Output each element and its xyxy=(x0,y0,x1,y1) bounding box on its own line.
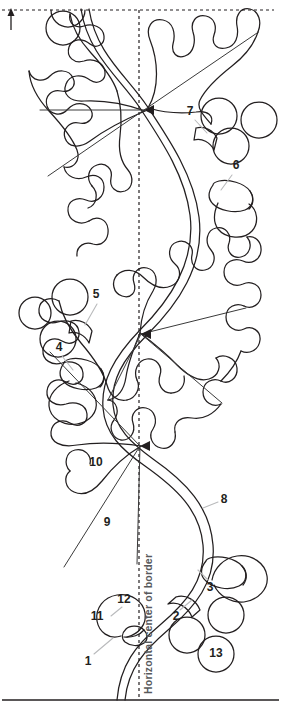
leader-line-1 xyxy=(94,638,113,654)
callout-label-7: 7 xyxy=(187,104,194,118)
pattern-line-art: 1 2 3 4 5 6 7 8 9 10 11 12 13 Horizontal… xyxy=(0,0,281,711)
circle-upper-right-c xyxy=(213,128,249,164)
callout-label-1: 1 xyxy=(85,654,92,668)
callout-label-6: 6 xyxy=(233,158,240,172)
leader-line-7 xyxy=(195,120,207,133)
acorn-lower-right xyxy=(202,556,268,602)
horizontal-center-label: Horizontal center of border xyxy=(142,554,154,694)
border-pattern-diagram: 1 2 3 4 5 6 7 8 9 10 11 12 13 Horizontal… xyxy=(0,0,281,711)
oak-leaf-middle-right-lower-lobes xyxy=(108,333,175,448)
oak-leaf-middle-right xyxy=(114,228,262,432)
callout-label-11: 11 xyxy=(91,609,104,623)
circle-upper-right-b xyxy=(241,102,277,138)
callout-label-2: 2 xyxy=(173,609,180,623)
callout-label-12: 12 xyxy=(117,592,131,606)
callout-label-8: 8 xyxy=(221,492,228,506)
acorn-middle-left xyxy=(49,358,104,424)
horizontal-center-label-group: Horizontal center of border xyxy=(142,554,154,694)
up-arrow-icon xyxy=(8,8,15,30)
leader-line-8 xyxy=(203,502,218,508)
leader-line-5 xyxy=(85,304,97,325)
acorn-upper-right xyxy=(209,180,256,237)
oak-leaf-upper-left-lower-lobes xyxy=(64,91,132,256)
callout-label-9: 9 xyxy=(104,515,111,529)
leader-line-12 xyxy=(111,607,122,616)
circle-middle-left-b xyxy=(19,297,51,329)
callout-label-4: 4 xyxy=(56,340,63,354)
callout-label-13: 13 xyxy=(209,646,223,660)
callout-label-5: 5 xyxy=(93,287,100,301)
circle-top-left xyxy=(46,11,80,45)
callout-label-3: 3 xyxy=(207,580,214,594)
circle-middle-left-a xyxy=(52,279,88,315)
oak-leaf-lower-left xyxy=(39,299,184,494)
callout-label-10: 10 xyxy=(89,455,103,469)
leader-line-6 xyxy=(221,175,232,190)
